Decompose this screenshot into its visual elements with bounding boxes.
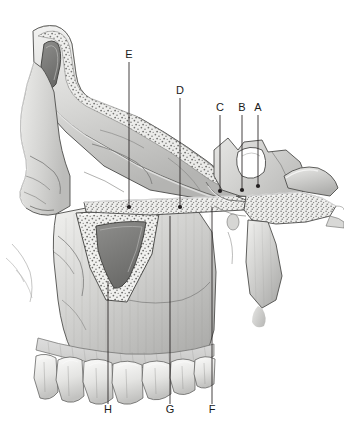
label-F: F: [209, 404, 216, 415]
leader-dot-A: [256, 184, 260, 188]
label-H: H: [104, 404, 112, 415]
label-D: D: [176, 85, 184, 96]
leader-dot-B: [240, 188, 244, 192]
leader-dot-C: [218, 189, 222, 193]
label-G: G: [166, 404, 175, 415]
leader-dot-E: [127, 205, 131, 209]
midface-body: [53, 204, 216, 364]
skull-sagittal-illustration: [0, 0, 344, 425]
label-C: C: [216, 102, 224, 113]
label-B: B: [238, 102, 245, 113]
label-A: A: [254, 102, 261, 113]
leader-dot-D: [178, 205, 182, 209]
anatomy-figure: EDCBAHGF: [0, 0, 344, 425]
label-E: E: [125, 49, 132, 60]
